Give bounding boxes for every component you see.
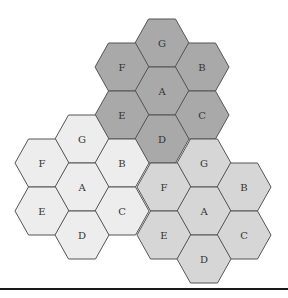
cell-label: E xyxy=(118,110,125,121)
cell-label: C xyxy=(240,230,248,241)
bottom-rule xyxy=(0,288,288,290)
cell-label: A xyxy=(199,206,208,217)
cell-label: E xyxy=(160,230,167,241)
cell-label: D xyxy=(158,134,166,145)
cell-label: G xyxy=(200,158,208,169)
cell-label: G xyxy=(78,134,86,145)
cell-label: A xyxy=(157,86,166,97)
cell-label: F xyxy=(39,158,46,169)
cell-label: B xyxy=(198,62,205,73)
cell-label: D xyxy=(200,254,208,265)
cell-label: F xyxy=(119,62,126,73)
hexagonal-cell-reuse-diagram: GFBAECDGFBAECDGFBAECD xyxy=(0,0,288,298)
cell-label: A xyxy=(77,182,86,193)
cell-label: C xyxy=(118,206,126,217)
cell-label: E xyxy=(38,206,45,217)
cell-label: F xyxy=(161,182,168,193)
hex-grid: GFBAECDGFBAECDGFBAECD xyxy=(0,0,288,298)
cell-label: D xyxy=(78,230,86,241)
cell-label: C xyxy=(198,110,206,121)
cell-label: B xyxy=(118,158,125,169)
cell-label: G xyxy=(158,38,166,49)
cell-label: B xyxy=(240,182,247,193)
